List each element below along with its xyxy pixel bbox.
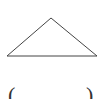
answer-left-parenthesis: ( [8, 84, 15, 99]
triangle-shape [7, 18, 97, 56]
answer-right-parenthesis: ) [86, 84, 93, 99]
